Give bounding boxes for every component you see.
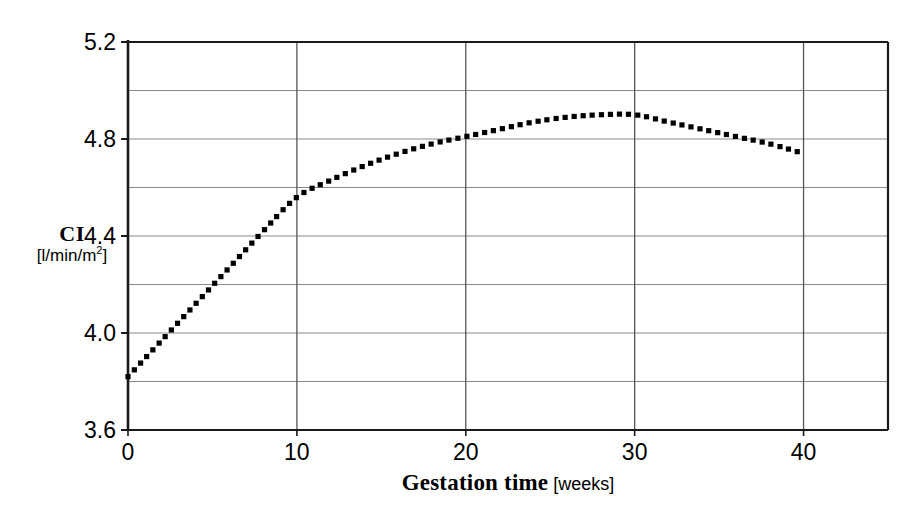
x-axis-title-main: Gestation time	[402, 470, 549, 495]
plot-canvas: 3.64.04.44.85.2 010203040	[0, 0, 923, 515]
data-series-cardiac-index	[125, 112, 799, 380]
horizontal-gridlines	[128, 42, 888, 430]
y-axis-title: CI [l/min/m2]	[20, 222, 124, 265]
y-axis-title-units: [l/min/m2]	[20, 247, 124, 265]
x-tick-label: 30	[622, 439, 648, 465]
x-tick-label: 20	[453, 439, 479, 465]
x-tick-label: 0	[122, 439, 135, 465]
y-tick-label: 5.2	[84, 29, 116, 55]
x-axis-title: Gestation time[weeks]	[128, 470, 888, 496]
y-units-suffix: ]	[102, 246, 107, 265]
x-tick-label: 10	[284, 439, 310, 465]
tick-marks	[121, 42, 804, 436]
chart-figure: 3.64.04.44.85.2 010203040 CI [l/min/m2] …	[0, 0, 923, 515]
x-axis-title-units: [weeks]	[553, 474, 614, 494]
y-tick-label: 3.6	[84, 417, 116, 443]
x-tick-labels: 010203040	[122, 439, 817, 465]
chart-page: 3.64.04.44.85.2 010203040 CI [l/min/m2] …	[0, 0, 923, 515]
y-axis-title-main: CI	[20, 222, 124, 245]
y-units-prefix: [l/min/m	[37, 246, 97, 265]
y-tick-label: 4.0	[84, 320, 116, 346]
y-tick-label: 4.8	[84, 126, 116, 152]
x-tick-label: 40	[791, 439, 817, 465]
